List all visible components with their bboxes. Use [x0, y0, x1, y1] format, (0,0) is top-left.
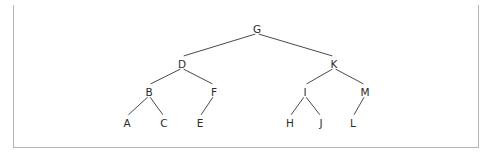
tree-edge-m-l: [354, 97, 364, 115]
tree-node-a: A: [123, 117, 131, 129]
tree-node-c: C: [160, 117, 167, 129]
tree-node-h: H: [286, 117, 294, 129]
tree-edge-d-b: [151, 69, 181, 84]
tree-edge-k-i: [307, 69, 333, 84]
tree-edge-i-h: [291, 97, 304, 115]
tree-edge-g-k: [259, 34, 333, 56]
tree-node-e: E: [197, 117, 204, 129]
tree-edge-k-m: [336, 69, 364, 84]
tree-label-layer: GDKBFIMACEHJL: [123, 23, 369, 129]
figure-root: GDKBFIMACEHJL: [0, 0, 489, 159]
tree-node-l: L: [350, 117, 356, 129]
tree-node-i: I: [303, 86, 306, 98]
tree-edge-i-j: [306, 97, 320, 115]
tree-edge-b-c: [150, 97, 163, 115]
tree-edge-layer: [128, 34, 364, 115]
tree-edge-b-a: [128, 97, 147, 115]
tree-node-m: M: [360, 86, 369, 98]
tree-edge-f-e: [201, 97, 213, 115]
tree-node-f: F: [211, 86, 217, 98]
tree-node-j: J: [318, 117, 322, 129]
tree-node-g: G: [253, 23, 261, 35]
tree-node-b: B: [145, 86, 152, 98]
binary-tree-canvas: GDKBFIMACEHJL: [0, 0, 489, 159]
tree-node-d: D: [178, 58, 186, 70]
tree-edge-g-d: [184, 34, 256, 56]
tree-node-k: K: [331, 58, 339, 70]
tree-edge-d-f: [184, 69, 213, 84]
